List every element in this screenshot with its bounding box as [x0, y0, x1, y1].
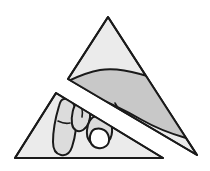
fingernail [90, 128, 109, 148]
hand-and-triangles-illustration [0, 0, 210, 171]
illustration-canvas: Hand holding two overlapping triangles [0, 0, 210, 171]
